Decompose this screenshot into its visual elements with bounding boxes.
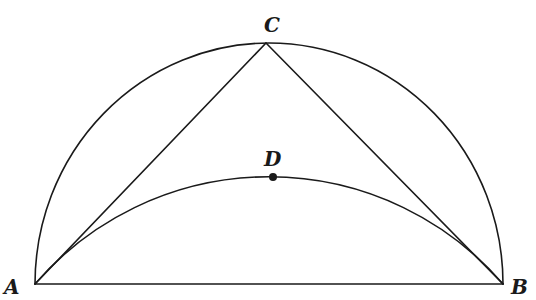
label-b: B	[510, 275, 528, 299]
geometry-diagram: C D A B	[0, 0, 536, 300]
segment-ac	[35, 43, 266, 284]
label-c: C	[264, 13, 280, 37]
label-a: A	[2, 275, 20, 299]
arc-adb	[35, 177, 503, 284]
point-d-marker	[269, 173, 277, 181]
label-d: D	[263, 147, 282, 171]
